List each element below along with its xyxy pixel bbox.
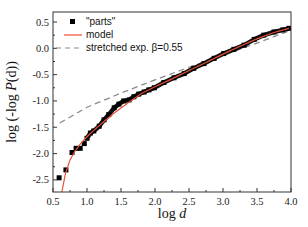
legend: "parts" model stretched exp. β=0.55 (56, 16, 183, 53)
legend-label-model: model (86, 29, 113, 40)
legend-label-parts: "parts" (86, 16, 116, 27)
y-tick-label: 0.5 (36, 17, 49, 28)
y-tick-label: -0.5 (32, 69, 49, 80)
data-point (112, 105, 117, 110)
legend-label-stretched-exp: stretched exp. β=0.55 (86, 42, 183, 53)
chart: 0.51.01.52.02.53.03.54.0 0.50.0-0.5-1.0-… (0, 0, 308, 227)
y-tick-label: -2.0 (32, 148, 49, 159)
legend-marker-square-icon (70, 19, 75, 24)
x-tick-label: 3.0 (216, 196, 229, 207)
data-point (116, 102, 121, 107)
y-axis-label: log (-log P(d)) (4, 61, 20, 143)
y-tick-label: -1.0 (32, 95, 49, 106)
data-point (57, 175, 62, 180)
x-axis-label: log d (158, 206, 187, 221)
x-axis-ticks: 0.51.01.52.02.53.03.54.0 (46, 188, 297, 207)
data-point (121, 98, 126, 103)
x-tick-label: 1.5 (114, 196, 127, 207)
x-tick-label: 4.0 (284, 196, 297, 207)
x-tick-label: 0.5 (46, 196, 59, 207)
x-tick-label: 1.0 (80, 196, 93, 207)
x-tick-label: 3.5 (250, 196, 263, 207)
y-tick-label: -1.5 (32, 122, 49, 133)
y-tick-label: -2.5 (32, 174, 49, 185)
y-tick-label: 0.0 (36, 43, 49, 54)
